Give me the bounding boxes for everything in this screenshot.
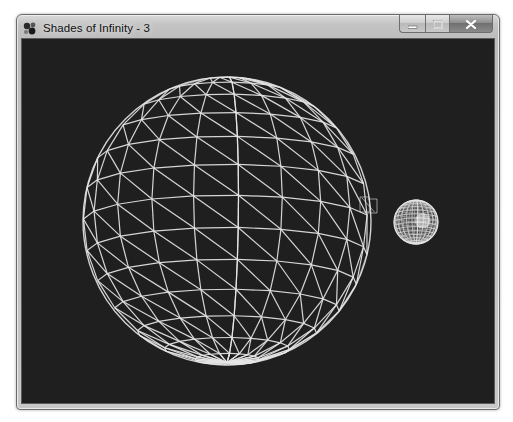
- scene-canvas: [22, 39, 495, 404]
- minimize-button[interactable]: [399, 15, 425, 33]
- app-window: Shades of Infinity - 3: [16, 14, 500, 410]
- title-bar[interactable]: Shades of Infinity - 3: [17, 15, 499, 39]
- window-title: Shades of Infinity - 3: [43, 22, 150, 34]
- wireframe-box: [360, 197, 377, 213]
- small-dense-sphere: [394, 200, 438, 244]
- close-icon: [466, 15, 476, 33]
- large-wireframe-sphere: [83, 77, 371, 365]
- minimize-icon: [408, 15, 418, 33]
- maximize-button[interactable]: [425, 15, 450, 33]
- close-button[interactable]: [450, 15, 493, 33]
- render-viewport[interactable]: [21, 38, 495, 404]
- caption-buttons: [399, 15, 493, 33]
- app-icon[interactable]: [22, 20, 38, 36]
- maximize-icon: [433, 15, 443, 33]
